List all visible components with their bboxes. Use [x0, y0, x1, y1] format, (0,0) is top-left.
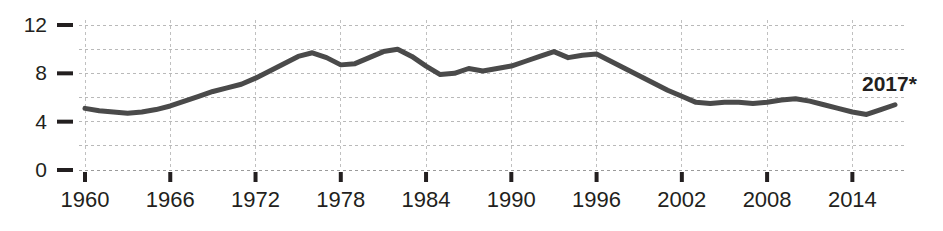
chart-annotations: 2017*: [862, 72, 918, 95]
x-tick-label-1966: 1966: [146, 187, 195, 212]
x-tick-label-2014: 2014: [828, 187, 877, 212]
x-tick-label-1978: 1978: [316, 187, 365, 212]
x-axis-tick-marks: [85, 172, 852, 182]
y-axis-tick-marks: [57, 25, 73, 170]
x-tick-label-1996: 1996: [572, 187, 621, 212]
x-tick-label-1984: 1984: [402, 187, 451, 212]
x-tick-label-1972: 1972: [231, 187, 280, 212]
x-axis-tick-labels: 1960196619721978198419901996200220082014: [61, 187, 877, 212]
data-series-group: [85, 49, 895, 114]
line-chart: 04812 1960196619721978198419901996200220…: [0, 0, 943, 231]
end-point-label: 2017*: [862, 72, 918, 95]
y-axis-tick-labels: 04812: [24, 13, 48, 181]
y-tick-label-8: 8: [35, 61, 47, 84]
series-line-value: [85, 49, 895, 114]
x-tick-label-2008: 2008: [743, 187, 792, 212]
y-tick-label-0: 0: [35, 158, 47, 181]
y-tick-label-4: 4: [35, 110, 47, 133]
y-tick-label-12: 12: [24, 13, 47, 36]
x-tick-label-1990: 1990: [487, 187, 536, 212]
chart-canvas: 04812 1960196619721978198419901996200220…: [0, 0, 943, 231]
x-tick-label-1960: 1960: [61, 187, 110, 212]
x-tick-label-2002: 2002: [657, 187, 706, 212]
